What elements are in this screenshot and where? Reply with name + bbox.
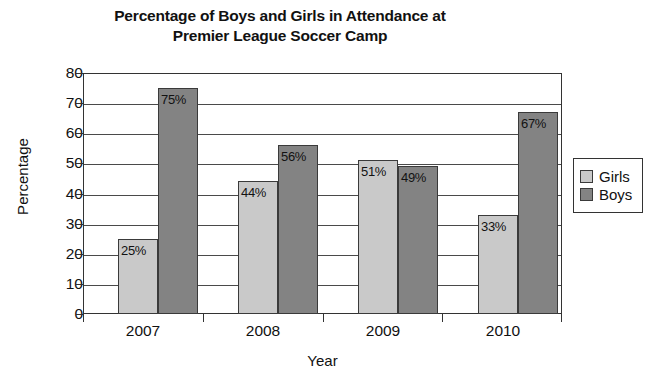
chart-title: Percentage of Boys and Girls in Attendan…: [0, 6, 560, 46]
x-tick-label-2008: 2008: [246, 322, 280, 340]
bar-boys-2009: 49%: [398, 166, 438, 314]
bar-girls-2008: 44%: [238, 181, 278, 314]
bar-girls-2009: 51%: [358, 160, 398, 314]
chart-title-line-1: Percentage of Boys and Girls in Attendan…: [114, 7, 446, 24]
legend-label-girls: Girls: [599, 169, 630, 184]
bar-boys-2008: 56%: [278, 145, 318, 314]
legend-label-boys: Boys: [599, 187, 632, 202]
bar-value-label: 33%: [481, 219, 506, 234]
bar-boys-2007: 75%: [158, 88, 198, 314]
bar-chart: Percentage of Boys and Girls in Attendan…: [0, 0, 647, 378]
chart-legend: Girls Boys: [573, 158, 643, 213]
bar-girls-2007: 25%: [118, 239, 158, 314]
x-tick-label-2009: 2009: [366, 322, 400, 340]
bar-value-label: 51%: [361, 164, 386, 179]
legend-swatch-girls-icon: [580, 170, 593, 183]
bar-value-label: 75%: [161, 92, 186, 107]
bar-value-label: 56%: [281, 149, 306, 164]
x-axis-title: Year: [83, 352, 562, 369]
bar-value-label: 25%: [121, 243, 146, 258]
x-tick-label-2007: 2007: [126, 322, 160, 340]
legend-swatch-boys-icon: [580, 188, 593, 201]
legend-item-girls: Girls: [580, 169, 638, 184]
bar-boys-2010: 67%: [518, 112, 558, 314]
bar-value-label: 49%: [401, 170, 426, 185]
bar-value-label: 44%: [241, 185, 266, 200]
bar-value-label: 67%: [521, 116, 546, 131]
bar-girls-2010: 33%: [478, 215, 518, 314]
bar-series-container: 25% 75% 44% 56% 51% 49% 33% 67%: [83, 73, 562, 314]
chart-title-line-2: Premier League Soccer Camp: [0, 26, 560, 46]
legend-item-boys: Boys: [580, 187, 638, 202]
y-axis-title: Percentage: [14, 97, 31, 257]
x-tick-label-2010: 2010: [486, 322, 520, 340]
